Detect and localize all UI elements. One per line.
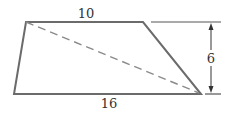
trapezoid-outline xyxy=(14,22,201,94)
arrowhead-down-icon xyxy=(209,86,214,93)
top-base-label: 10 xyxy=(78,6,95,21)
trapezoid-diagram: 10 16 6 xyxy=(0,0,233,113)
arrowhead-up-icon xyxy=(209,23,214,30)
height-label: 6 xyxy=(207,51,215,66)
bottom-base-label: 16 xyxy=(101,96,118,111)
dashed-diagonal xyxy=(26,22,199,93)
